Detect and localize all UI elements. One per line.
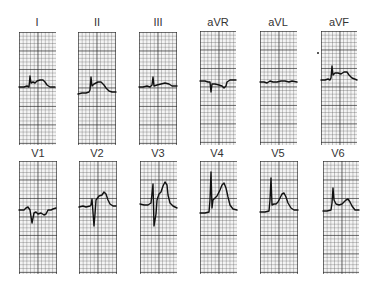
lead-label-v6: V6 (318, 147, 358, 159)
lead-label-avf: aVF (319, 16, 359, 28)
ecg-grid-v3 (140, 161, 177, 274)
lead-label-iii: III (138, 16, 178, 28)
ecg-grid-iii (139, 32, 177, 145)
ecg-grid-avr (200, 31, 236, 145)
ecg-grid-avf (321, 31, 357, 145)
lead-label-ii: II (77, 16, 117, 28)
ecg-grid-avl (260, 31, 297, 145)
ecg-grid-v6 (323, 161, 359, 274)
ecg-grid-v4 (200, 161, 237, 274)
lead-label-i: I (17, 16, 57, 28)
lead-label-v4: V4 (197, 147, 237, 159)
ecg-grid-i (19, 32, 56, 145)
lead-label-v3: V3 (138, 147, 178, 159)
lead-label-v5: V5 (258, 147, 298, 159)
ecg-grid-v5 (260, 161, 298, 274)
lead-label-avl: aVL (258, 16, 298, 28)
lead-label-avr: aVR (198, 16, 238, 28)
lead-label-v1: V1 (18, 147, 58, 159)
ecg-grid-v1 (19, 161, 57, 274)
marker-dot (317, 52, 319, 54)
ecg-grid-v2 (79, 161, 117, 274)
ecg-grid-ii (78, 32, 116, 145)
lead-label-v2: V2 (77, 147, 117, 159)
